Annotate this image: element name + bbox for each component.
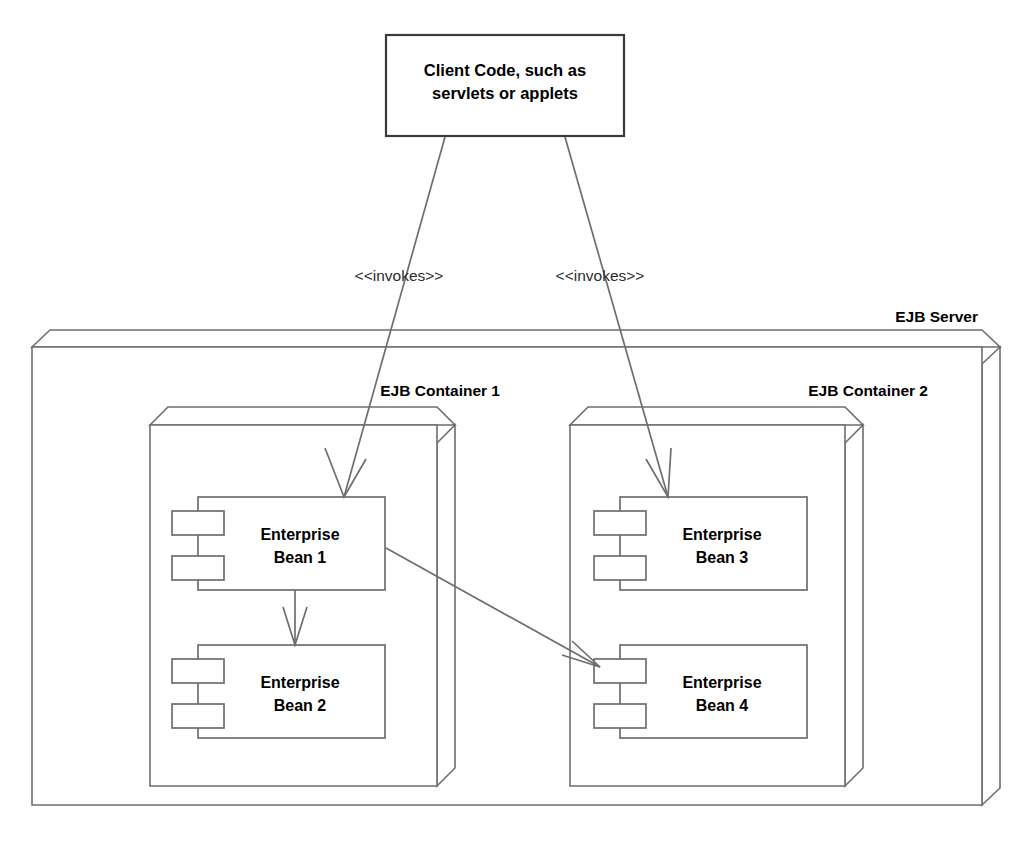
enterprise-bean-4-tab-upper [594,659,646,683]
ejb-container-1-top-face [150,407,455,425]
enterprise-bean-3-tab-lower [594,556,646,580]
client-code-label-line2: servlets or applets [432,84,578,102]
ejb-container-2-top-face [570,407,863,425]
enterprise-bean-4-body [620,645,807,738]
diagram-canvas: EJB Server EJB Container 1 EJB Container… [0,0,1022,856]
enterprise-bean-1-tab-upper [172,511,224,535]
enterprise-bean-4-tab-lower [594,704,646,728]
ejb-server-label: EJB Server [895,308,978,325]
enterprise-bean-4-label-line2: Bean 4 [696,697,749,714]
enterprise-bean-3-body [620,497,807,590]
client-code-label-line1: Client Code, such as [424,61,586,79]
component-enterprise-bean-1[interactable]: Enterprise Bean 1 [172,497,385,590]
component-enterprise-bean-2[interactable]: Enterprise Bean 2 [172,645,385,738]
enterprise-bean-2-tab-lower [172,704,224,728]
edge-client-to-bean-1-label: <<invokes>> [355,267,444,284]
enterprise-bean-1-tab-lower [172,556,224,580]
client-code-box[interactable]: Client Code, such as servlets or applets [386,35,624,136]
ejb-container-2-label: EJB Container 2 [808,382,928,399]
edge-client-to-bean-3-label: <<invokes>> [556,267,645,284]
enterprise-bean-1-label-line2: Bean 1 [274,549,327,566]
component-enterprise-bean-4[interactable]: Enterprise Bean 4 [594,645,807,738]
component-enterprise-bean-3[interactable]: Enterprise Bean 3 [594,497,807,590]
enterprise-bean-1-body [198,497,385,590]
ejb-container-2-side-face [845,425,863,786]
uml-deployment-diagram: EJB Server EJB Container 1 EJB Container… [0,0,1022,856]
enterprise-bean-4-label-line1: Enterprise [682,674,761,691]
enterprise-bean-3-label-line2: Bean 3 [696,549,749,566]
ejb-server-top-face [32,330,1000,347]
enterprise-bean-2-label-line2: Bean 2 [274,697,327,714]
enterprise-bean-2-tab-upper [172,659,224,683]
enterprise-bean-3-label-line1: Enterprise [682,526,761,543]
ejb-container-1-label: EJB Container 1 [380,382,500,399]
enterprise-bean-2-body [198,645,385,738]
ejb-container-1-side-face [437,425,455,786]
enterprise-bean-2-label-line1: Enterprise [260,674,339,691]
ejb-server-side-face [982,347,1000,805]
enterprise-bean-3-tab-upper [594,511,646,535]
enterprise-bean-1-label-line1: Enterprise [260,526,339,543]
